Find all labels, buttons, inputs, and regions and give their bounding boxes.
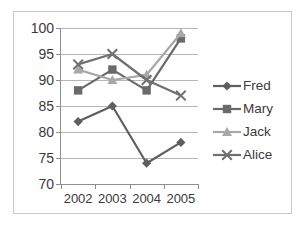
series-line [78, 38, 181, 90]
legend-marker-diamond-icon [212, 79, 242, 93]
data-point-cross-x [176, 91, 186, 101]
series-line [78, 33, 181, 80]
legend-label: Mary [243, 102, 273, 116]
data-point-square [142, 86, 150, 94]
legend-item-alice[interactable]: Alice [212, 143, 292, 166]
data-point-square [223, 104, 231, 112]
series-line [78, 106, 181, 163]
data-point-diamond [222, 81, 231, 90]
data-point-triangle [176, 28, 186, 37]
legend-marker-cross-x-icon [212, 148, 242, 162]
legend-label: Jack [243, 125, 271, 139]
legend-item-fred[interactable]: Fred [212, 74, 292, 97]
data-point-square [108, 65, 116, 73]
legend-label: Fred [243, 79, 271, 93]
legend-item-jack[interactable]: Jack [212, 120, 292, 143]
legend-label: Alice [243, 148, 272, 162]
chart-legend: FredMaryJackAlice [212, 74, 292, 166]
legend-marker-triangle-icon [212, 125, 242, 139]
data-point-diamond [108, 101, 117, 110]
series-fred [74, 101, 186, 167]
legend-marker-square-icon [212, 102, 242, 116]
series-mary [74, 34, 185, 94]
chart-frame: 707580859095100 2002200320042005 FredMar… [13, 11, 292, 214]
legend-item-mary[interactable]: Mary [212, 97, 292, 120]
data-point-square [74, 86, 82, 94]
data-point-diamond [74, 117, 83, 126]
